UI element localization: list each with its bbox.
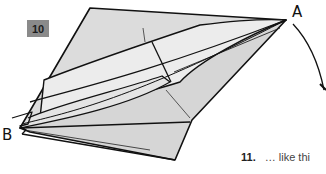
point-label-b: B	[2, 126, 12, 144]
step-number-badge: 10	[27, 20, 49, 37]
next-step-number: 11.	[241, 151, 256, 163]
point-label-a: A	[292, 3, 302, 21]
step-number: 10	[32, 23, 44, 35]
next-step-text: … like thi	[265, 151, 310, 163]
next-step-caption: 11. … like thi	[241, 151, 310, 163]
